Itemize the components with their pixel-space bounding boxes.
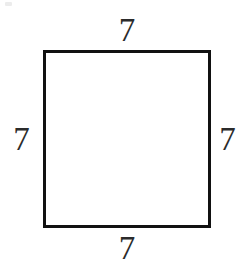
side-label-right: 7 xyxy=(211,123,244,156)
square-shape xyxy=(43,50,211,228)
side-label-left: 7 xyxy=(0,123,43,156)
side-label-top: 7 xyxy=(43,14,211,47)
side-label-bottom: 7 xyxy=(43,232,211,265)
scan-artifact xyxy=(5,2,12,6)
figure-canvas: 7 7 7 7 xyxy=(0,0,244,265)
